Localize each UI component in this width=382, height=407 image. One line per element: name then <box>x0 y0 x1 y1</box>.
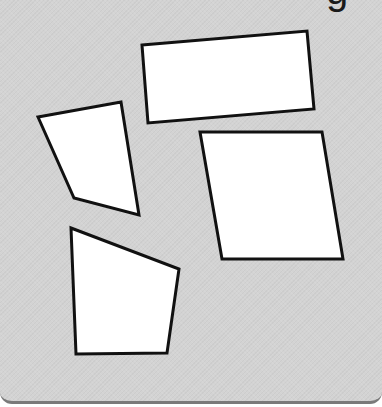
left-trapezoid-shape <box>38 102 139 215</box>
bottom-quadrilateral-shape <box>71 228 179 354</box>
shapes-canvas <box>0 0 382 407</box>
rectangle-shape <box>142 31 314 123</box>
parallelogram-shape <box>200 132 343 259</box>
